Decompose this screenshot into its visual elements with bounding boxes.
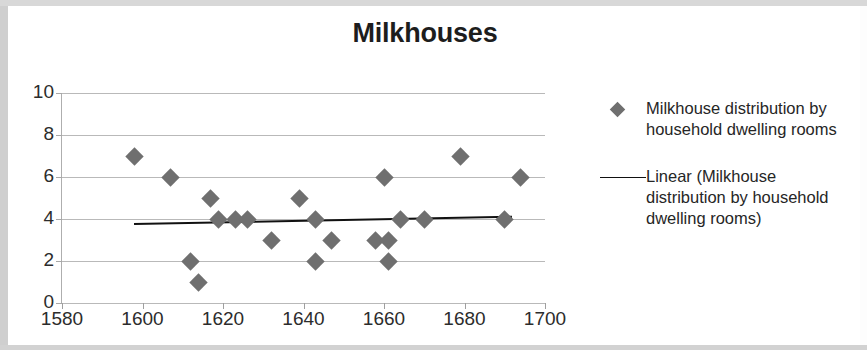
y-axis-tick-label: 4 <box>18 207 54 229</box>
x-axis-tick <box>465 303 466 309</box>
x-axis-tick-label: 1620 <box>193 308 253 330</box>
data-point-marker <box>306 252 324 270</box>
legend-label-scatter: Milkhouse distribution by household dwel… <box>646 98 842 140</box>
x-axis-tick-label: 1660 <box>354 308 414 330</box>
x-axis-tick <box>545 303 546 309</box>
diamond-marker-icon <box>610 102 626 118</box>
y-axis-tick <box>56 135 62 136</box>
y-axis-tick <box>56 177 62 178</box>
chart-figure: Milkhouses 0246810 158016001620164016601… <box>0 0 867 350</box>
data-point-marker <box>306 210 324 228</box>
data-point-marker <box>125 147 143 165</box>
x-axis-tick-labels: 1580160016201640166016801700 <box>62 308 545 338</box>
chart-legend: Milkhouse distribution by household dwel… <box>600 98 850 255</box>
data-point-marker <box>451 147 469 165</box>
plot-area <box>62 93 545 303</box>
gridline <box>62 93 545 94</box>
data-point-marker <box>379 231 397 249</box>
data-point-marker <box>391 210 409 228</box>
scan-edge-left <box>0 0 8 350</box>
data-point-marker <box>415 210 433 228</box>
legend-entry-trendline: Linear (Milkhouse distribution by househ… <box>600 166 850 229</box>
data-point-marker <box>190 273 208 291</box>
data-point-marker <box>202 189 220 207</box>
x-axis-tick <box>62 303 63 309</box>
x-axis-tick-label: 1600 <box>113 308 173 330</box>
data-point-marker <box>161 168 179 186</box>
data-point-marker <box>375 168 393 186</box>
legend-swatch-scatter <box>600 98 646 120</box>
x-axis-tick-label: 1700 <box>515 308 575 330</box>
gridline <box>62 261 545 262</box>
legend-swatch-trendline <box>600 166 646 188</box>
x-axis-tick-label: 1680 <box>435 308 495 330</box>
y-axis-tick-label: 2 <box>18 249 54 271</box>
data-point-marker <box>182 252 200 270</box>
legend-label-trendline: Linear (Milkhouse distribution by househ… <box>646 166 842 229</box>
y-axis-line <box>61 93 62 304</box>
scan-edge-bottom <box>0 345 867 350</box>
y-axis-tick <box>56 93 62 94</box>
data-point-marker <box>262 231 280 249</box>
data-point-marker <box>322 231 340 249</box>
data-point-marker <box>290 189 308 207</box>
chart-title: Milkhouses <box>290 18 560 49</box>
y-axis-tick <box>56 261 62 262</box>
x-axis-tick <box>304 303 305 309</box>
legend-entry-scatter: Milkhouse distribution by household dwel… <box>600 98 850 140</box>
x-axis-tick-label: 1580 <box>32 308 92 330</box>
data-point-marker <box>379 252 397 270</box>
x-axis-tick <box>143 303 144 309</box>
x-axis-tick <box>223 303 224 309</box>
gridline <box>62 177 545 178</box>
line-marker-icon <box>600 177 646 178</box>
x-axis-tick <box>384 303 385 309</box>
y-axis-tick <box>56 219 62 220</box>
y-axis-tick-label: 6 <box>18 165 54 187</box>
y-axis-tick-labels: 0246810 <box>14 93 54 303</box>
y-axis-tick-label: 8 <box>18 123 54 145</box>
x-axis-tick-label: 1640 <box>274 308 334 330</box>
gridline <box>62 135 545 136</box>
y-axis-tick-label: 10 <box>18 81 54 103</box>
data-point-marker <box>512 168 530 186</box>
data-point-marker <box>238 210 256 228</box>
data-point-marker <box>496 210 514 228</box>
